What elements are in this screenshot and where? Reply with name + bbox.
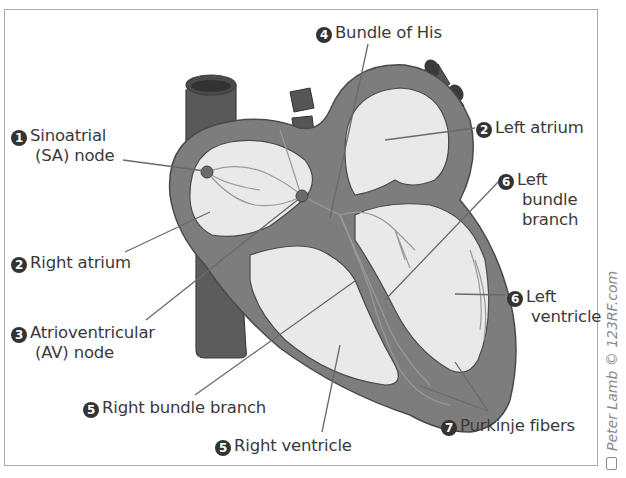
- number-badge: 3: [11, 327, 27, 343]
- number-badge: 2: [476, 122, 492, 138]
- number-badge: 2: [11, 257, 27, 273]
- label-left-ventricle: 6Left ventricle: [507, 287, 601, 327]
- label-right-atrium: 2Right atrium: [11, 253, 131, 273]
- label-av-node: 3Atrioventricular (AV) node: [11, 323, 155, 363]
- number-badge: 7: [441, 420, 457, 436]
- label-purkinje-fibers: 7Purkinje fibers: [441, 416, 575, 436]
- label-right-ventricle: 5Right ventricle: [215, 436, 352, 456]
- left-atrium-chamber: [345, 88, 449, 195]
- label-left-atrium: 2Left atrium: [476, 118, 584, 138]
- number-badge: 5: [83, 402, 99, 418]
- label-sa-node: 1Sinoatrial (SA) node: [11, 126, 115, 166]
- label-right-bundle-branch: 5Right bundle branch: [83, 398, 266, 418]
- number-badge: 6: [498, 174, 514, 190]
- number-badge: 4: [316, 27, 332, 43]
- camera-icon: [606, 457, 617, 470]
- number-badge: 5: [215, 440, 231, 456]
- label-left-bundle-branch: 6Left bundle branch: [498, 170, 578, 230]
- number-badge: 1: [11, 130, 27, 146]
- sa-node-marker: [201, 166, 213, 178]
- image-credit: Peter Lamb © 123RF.com: [604, 271, 620, 470]
- number-badge: 6: [507, 291, 523, 307]
- label-bundle-of-his: 4Bundle of His: [316, 23, 442, 43]
